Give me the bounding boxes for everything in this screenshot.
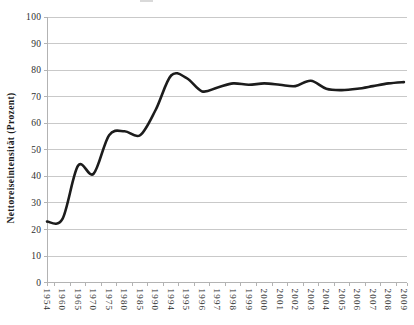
y-tick-label: 70 <box>31 92 41 102</box>
x-tick-label: 1999 <box>244 289 254 312</box>
x-tick-label: 2007 <box>368 289 378 312</box>
chart-page: Nettoreiseintensität (Prozent) 010203040… <box>0 0 414 325</box>
x-tick-label: 2003 <box>306 289 316 312</box>
y-tick-label: 60 <box>31 118 41 128</box>
y-axis-title: Nettoreiseintensität (Prozent) <box>6 92 16 223</box>
data-series-line <box>47 73 404 224</box>
y-tick-label: 100 <box>26 12 41 22</box>
y-tick-label: 10 <box>31 251 41 261</box>
x-tick-label: 2004 <box>321 289 331 312</box>
x-tick-label: 1995 <box>181 289 191 312</box>
x-tick-label: 1997 <box>212 289 222 312</box>
x-tick-label: 1970 <box>88 289 98 312</box>
x-tick-label: 1994 <box>166 289 176 312</box>
x-tick-label: 1965 <box>73 289 83 312</box>
x-tick-label: 1980 <box>119 289 129 312</box>
x-tick-label: 2005 <box>337 289 347 312</box>
x-tick-label: 1998 <box>228 289 238 312</box>
y-tick-label: 20 <box>31 225 41 235</box>
x-tick-label: 2000 <box>259 289 269 312</box>
x-tick-label: 1990 <box>150 289 160 312</box>
x-tick-label: 2008 <box>383 289 393 312</box>
x-tick-label: 1960 <box>57 289 67 312</box>
y-tick-label: 0 <box>36 278 41 288</box>
y-tick-label: 30 <box>31 198 41 208</box>
y-tick-label: 40 <box>31 171 41 181</box>
x-tick-label: 2009 <box>399 289 409 312</box>
x-tick-label: 1996 <box>197 289 207 312</box>
x-tick-label: 1954 <box>42 289 52 312</box>
y-tick-label: 50 <box>31 145 41 155</box>
cropped-title-remnant <box>140 0 153 2</box>
x-tick-label: 2001 <box>275 289 285 312</box>
x-tick-label: 1975 <box>104 289 114 312</box>
y-tick-label: 80 <box>31 65 41 75</box>
travel-intensity-line-chart: 0102030405060708090100195419601965197019… <box>0 0 414 325</box>
x-tick-label: 2006 <box>352 289 362 312</box>
y-tick-label: 90 <box>31 39 41 49</box>
x-tick-label: 1985 <box>135 289 145 312</box>
x-tick-label: 2002 <box>290 289 300 312</box>
